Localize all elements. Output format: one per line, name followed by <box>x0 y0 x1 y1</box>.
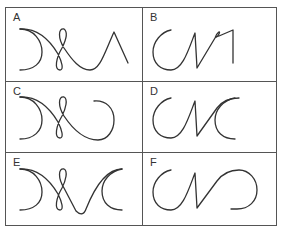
panel-e: E <box>6 153 142 225</box>
panel-f: F <box>143 153 279 225</box>
panel-b: B <box>143 8 279 80</box>
curve-b <box>143 8 279 80</box>
curve-d <box>143 82 279 154</box>
figure-grid: A B C D E <box>5 7 277 226</box>
panel-c: C <box>6 82 142 154</box>
curve-e <box>6 153 142 225</box>
panel-a: A <box>6 8 142 80</box>
curve-f <box>143 153 279 225</box>
panel-d: D <box>143 82 279 154</box>
curve-a <box>6 8 142 80</box>
curve-c <box>6 82 142 154</box>
